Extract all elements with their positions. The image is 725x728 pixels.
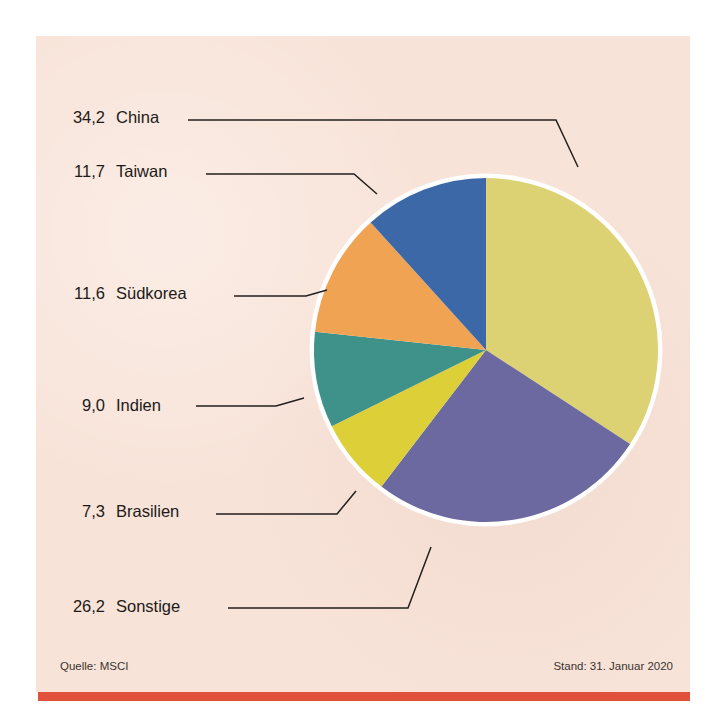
leader-line-s-dkorea	[234, 290, 327, 296]
leader-line-indien	[196, 398, 304, 406]
category-label-s-dkorea: Südkorea	[116, 284, 187, 302]
leader-line-taiwan	[206, 174, 377, 194]
value-label-s-dkorea: 11,6	[74, 284, 105, 302]
bottom-red-rule	[38, 692, 690, 701]
pie-slices	[314, 178, 658, 522]
value-label-china: 34,2	[73, 108, 105, 126]
category-label-taiwan: Taiwan	[116, 162, 167, 180]
value-label-indien: 9,0	[82, 396, 105, 414]
category-label-indien: Indien	[116, 396, 161, 414]
category-label-china: China	[116, 108, 160, 126]
leader-line-sonstige	[228, 547, 431, 608]
pie-chart: 34,2China11,7Taiwan11,6Südkorea9,0Indien…	[0, 0, 725, 728]
leader-line-china	[188, 120, 578, 167]
value-label-brasilien: 7,3	[82, 502, 105, 520]
callout-labels: 34,2China11,7Taiwan11,6Südkorea9,0Indien…	[73, 108, 188, 615]
value-label-taiwan: 11,7	[74, 162, 105, 180]
as-of-note: Stand: 31. Januar 2020	[553, 660, 673, 672]
source-note: Quelle: MSCI	[60, 660, 128, 672]
value-label-sonstige: 26,2	[73, 597, 105, 615]
leader-line-brasilien	[216, 491, 356, 514]
category-label-sonstige: Sonstige	[116, 597, 180, 615]
chart-figure: 34,2China11,7Taiwan11,6Südkorea9,0Indien…	[0, 0, 725, 728]
category-label-brasilien: Brasilien	[116, 502, 179, 520]
